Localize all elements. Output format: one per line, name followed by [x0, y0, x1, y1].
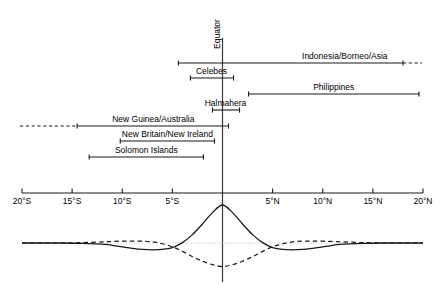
range-bar-label: Philippines [313, 82, 354, 92]
range-bar-label: Indonesia/Borneo/Asia [302, 51, 388, 61]
axis-tick-label: 5°S [165, 196, 179, 206]
axis-tick-label: 10°S [113, 196, 132, 206]
range-bar: Philippines [249, 82, 419, 97]
equator-label: Equator [212, 19, 222, 49]
figure-canvas: Indonesia/Borneo/AsiaCelebesPhilippinesH… [0, 0, 447, 284]
axis-tick-label: 15°S [63, 196, 82, 206]
range-bar: Celebes [190, 66, 233, 81]
axis-tick-label: 20°N [414, 196, 433, 206]
axis-tick-label: 5°N [265, 196, 279, 206]
range-bar: New Guinea/Australia [20, 114, 229, 129]
range-bar-label: Solomon Islands [115, 145, 178, 155]
range-bars-group: Indonesia/Borneo/AsiaCelebesPhilippinesH… [20, 51, 422, 160]
range-bar-label: New Guinea/Australia [112, 114, 194, 124]
range-bar: Solomon Islands [89, 145, 203, 160]
range-bar: New Britain/New Ireland [120, 129, 214, 144]
range-bar-label: Celebes [196, 66, 227, 76]
range-bar-label: Halmahera [205, 98, 247, 108]
range-bar-label: New Britain/New Ireland [122, 129, 213, 139]
axis-tick-label: 20°S [13, 196, 32, 206]
axis-tick-label: 10°N [313, 196, 332, 206]
range-bar: Halmahera [205, 98, 247, 113]
latitudinal-range-figure: Indonesia/Borneo/AsiaCelebesPhilippinesH… [0, 0, 447, 284]
range-bar: Indonesia/Borneo/Asia [178, 51, 422, 66]
axis-tick-label: 15°N [363, 196, 382, 206]
